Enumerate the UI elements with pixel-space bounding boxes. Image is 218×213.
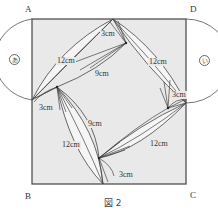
measure-top-left-9cm: 9cm: [94, 70, 110, 78]
vertex-label-a: A: [25, 5, 32, 14]
measure-left-bottom-12cm: 12cm: [61, 141, 81, 149]
measure-left-bottom-9cm: 9cm: [87, 120, 103, 128]
region-marker-left: あ: [9, 54, 20, 65]
vertex-label-c: C: [190, 191, 196, 200]
region-marker-right: い: [199, 55, 210, 66]
geometry-figure: A D B C あ い 12cm 9cm 3cm 12cm 3cm 3cm 9c…: [0, 0, 218, 213]
square-abcd: [32, 19, 186, 184]
vertex-label-b: B: [25, 192, 31, 201]
figure-caption: 図 2: [104, 199, 122, 208]
measure-bottom-3cm: 3cm: [118, 171, 134, 179]
measure-bottom-right-12cm: 12cm: [149, 140, 169, 148]
measure-right-3cm: 3cm: [171, 91, 187, 99]
measure-top-left-12cm: 12cm: [56, 57, 76, 65]
measure-top-3cm: 3cm: [100, 30, 116, 38]
measure-top-right-12cm: 12cm: [148, 58, 168, 66]
vertex-label-d: D: [190, 5, 197, 14]
measure-left-3cm: 3cm: [38, 104, 54, 112]
